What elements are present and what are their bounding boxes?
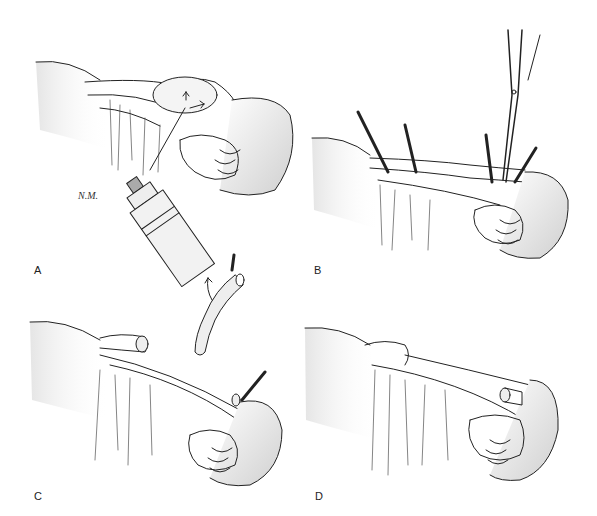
hemostat-3 (486, 135, 492, 182)
illustration-b (300, 0, 597, 270)
lift-arrow (205, 278, 212, 300)
panel-b: B (300, 0, 597, 270)
panel-d: D (300, 270, 597, 516)
panel-label-c: C (34, 490, 42, 502)
panel-a: N.M. A (0, 0, 300, 270)
illustration-a (0, 0, 300, 270)
hemostat-2 (405, 125, 416, 172)
illustration-c (0, 270, 300, 516)
illustration-d (300, 270, 597, 516)
ligated-stump (500, 388, 522, 405)
excised-tube-segment (195, 255, 244, 355)
artist-signature: N.M. (78, 190, 98, 201)
panel-c: C (0, 270, 300, 516)
scissors (503, 30, 540, 182)
panel-label-d: D (315, 490, 323, 502)
